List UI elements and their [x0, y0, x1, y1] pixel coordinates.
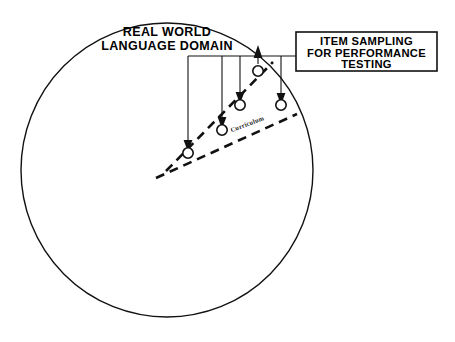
item-circle-3 — [235, 100, 245, 110]
item-circle-1 — [183, 148, 193, 158]
arrowhead-item-4 — [254, 45, 263, 58]
diagram-canvas: REAL WORLD LANGUAGE DOMAIN ITEM SAMPLING… — [0, 0, 455, 342]
item-circle-5 — [276, 100, 286, 110]
item-circle-4 — [253, 66, 263, 76]
curriculum-wedge-lower-line — [156, 114, 297, 178]
diagram-svg: REAL WORLD LANGUAGE DOMAIN ITEM SAMPLING… — [0, 0, 455, 342]
domain-label-line-1: REAL WORLD — [123, 25, 212, 39]
item-sampling-label-line-2: FOR PERFORMANCE — [307, 47, 426, 59]
domain-label-line-2: LANGUAGE DOMAIN — [101, 39, 233, 53]
curriculum-label: Curriculum — [229, 114, 265, 133]
item-circle-2 — [217, 125, 227, 135]
item-sampling-label-line-3: TESTING — [341, 58, 392, 70]
item-sampling-label-line-1: ITEM SAMPLING — [320, 35, 413, 47]
